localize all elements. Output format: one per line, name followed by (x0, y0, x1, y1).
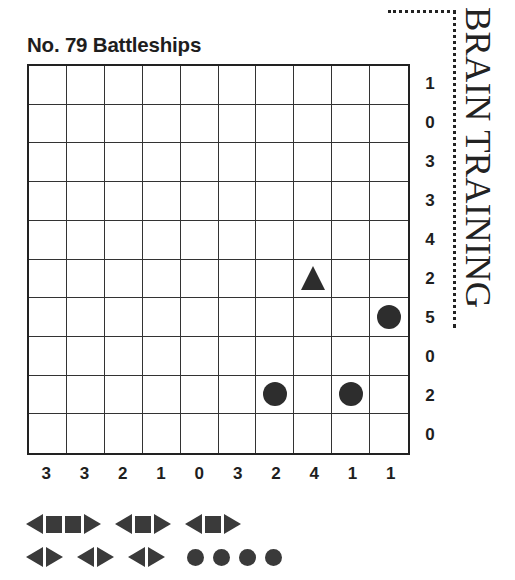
grid-cell-r4-c6[interactable] (256, 221, 294, 260)
grid-cell-r1-c8[interactable] (332, 105, 370, 144)
grid-cell-r2-c9[interactable] (370, 143, 408, 182)
grid-cell-r8-c5[interactable] (219, 376, 257, 415)
grid-cell-r9-c4[interactable] (181, 414, 219, 453)
grid-cell-r4-c7[interactable] (294, 221, 332, 260)
grid-cell-r6-c9[interactable] (370, 298, 408, 337)
grid-cell-r9-c2[interactable] (105, 414, 143, 453)
grid-cell-r0-c4[interactable] (181, 66, 219, 105)
grid-cell-r2-c6[interactable] (256, 143, 294, 182)
grid-cell-r3-c4[interactable] (181, 182, 219, 221)
grid-cell-r6-c3[interactable] (143, 298, 181, 337)
grid-cell-r5-c8[interactable] (332, 260, 370, 299)
grid-cell-r8-c2[interactable] (105, 376, 143, 415)
grid-cell-r1-c7[interactable] (294, 105, 332, 144)
grid-cell-r4-c4[interactable] (181, 221, 219, 260)
grid-cell-r5-c6[interactable] (256, 260, 294, 299)
grid-cell-r7-c9[interactable] (370, 337, 408, 376)
grid-cell-r5-c7[interactable] (294, 260, 332, 299)
grid-cell-r7-c4[interactable] (181, 337, 219, 376)
grid-cell-r1-c5[interactable] (219, 105, 257, 144)
grid-cell-r3-c7[interactable] (294, 182, 332, 221)
grid-cell-r1-c6[interactable] (256, 105, 294, 144)
grid-cell-r7-c7[interactable] (294, 337, 332, 376)
grid-cell-r3-c5[interactable] (219, 182, 257, 221)
grid-cell-r4-c1[interactable] (67, 221, 105, 260)
grid-cell-r7-c0[interactable] (29, 337, 67, 376)
grid-cell-r9-c5[interactable] (219, 414, 257, 453)
grid-cell-r7-c8[interactable] (332, 337, 370, 376)
grid-cell-r0-c2[interactable] (105, 66, 143, 105)
grid-cell-r7-c3[interactable] (143, 337, 181, 376)
grid-cell-r4-c9[interactable] (370, 221, 408, 260)
grid-cell-r0-c7[interactable] (294, 66, 332, 105)
grid-cell-r0-c0[interactable] (29, 66, 67, 105)
grid-cell-r5-c4[interactable] (181, 260, 219, 299)
grid-cell-r9-c8[interactable] (332, 414, 370, 453)
grid-cell-r2-c7[interactable] (294, 143, 332, 182)
grid-cell-r2-c0[interactable] (29, 143, 67, 182)
grid-cell-r4-c2[interactable] (105, 221, 143, 260)
grid-cell-r9-c3[interactable] (143, 414, 181, 453)
grid-cell-r7-c1[interactable] (67, 337, 105, 376)
grid-cell-r9-c1[interactable] (67, 414, 105, 453)
grid-cell-r1-c3[interactable] (143, 105, 181, 144)
grid-cell-r8-c0[interactable] (29, 376, 67, 415)
grid-cell-r3-c3[interactable] (143, 182, 181, 221)
grid-cell-r0-c8[interactable] (332, 66, 370, 105)
grid-cell-r6-c0[interactable] (29, 298, 67, 337)
grid-cell-r8-c3[interactable] (143, 376, 181, 415)
grid-cell-r8-c9[interactable] (370, 376, 408, 415)
grid-cell-r9-c0[interactable] (29, 414, 67, 453)
grid-cell-r1-c4[interactable] (181, 105, 219, 144)
grid-cell-r0-c9[interactable] (370, 66, 408, 105)
grid-cell-r3-c0[interactable] (29, 182, 67, 221)
grid-cell-r2-c1[interactable] (67, 143, 105, 182)
grid-cell-r0-c5[interactable] (219, 66, 257, 105)
grid-cell-r3-c8[interactable] (332, 182, 370, 221)
grid-cell-r5-c5[interactable] (219, 260, 257, 299)
grid-cell-r8-c4[interactable] (181, 376, 219, 415)
grid-cell-r4-c3[interactable] (143, 221, 181, 260)
grid-cell-r4-c5[interactable] (219, 221, 257, 260)
grid-cell-r6-c2[interactable] (105, 298, 143, 337)
grid-cell-r7-c6[interactable] (256, 337, 294, 376)
grid-cell-r6-c5[interactable] (219, 298, 257, 337)
grid-cell-r0-c6[interactable] (256, 66, 294, 105)
grid-cell-r6-c8[interactable] (332, 298, 370, 337)
grid-cell-r1-c0[interactable] (29, 105, 67, 144)
grid-cell-r9-c9[interactable] (370, 414, 408, 453)
grid-cell-r0-c1[interactable] (67, 66, 105, 105)
grid-cell-r2-c4[interactable] (181, 143, 219, 182)
grid-cell-r6-c1[interactable] (67, 298, 105, 337)
grid-cell-r9-c7[interactable] (294, 414, 332, 453)
grid-cell-r5-c1[interactable] (67, 260, 105, 299)
grid-cell-r2-c5[interactable] (219, 143, 257, 182)
grid-cell-r8-c7[interactable] (294, 376, 332, 415)
grid-cell-r4-c8[interactable] (332, 221, 370, 260)
grid-cell-r6-c7[interactable] (294, 298, 332, 337)
grid-cell-r5-c3[interactable] (143, 260, 181, 299)
grid-cell-r3-c6[interactable] (256, 182, 294, 221)
grid-cell-r2-c2[interactable] (105, 143, 143, 182)
grid-cell-r7-c5[interactable] (219, 337, 257, 376)
grid-cell-r2-c8[interactable] (332, 143, 370, 182)
grid-cell-r1-c9[interactable] (370, 105, 408, 144)
grid-cell-r3-c1[interactable] (67, 182, 105, 221)
grid-cell-r1-c2[interactable] (105, 105, 143, 144)
grid-cell-r5-c0[interactable] (29, 260, 67, 299)
grid-cell-r7-c2[interactable] (105, 337, 143, 376)
grid-cell-r3-c9[interactable] (370, 182, 408, 221)
grid-cell-r3-c2[interactable] (105, 182, 143, 221)
grid-cell-r0-c3[interactable] (143, 66, 181, 105)
grid-cell-r6-c6[interactable] (256, 298, 294, 337)
grid-cell-r5-c9[interactable] (370, 260, 408, 299)
grid-cell-r2-c3[interactable] (143, 143, 181, 182)
grid-cell-r5-c2[interactable] (105, 260, 143, 299)
grid-cell-r8-c6[interactable] (256, 376, 294, 415)
grid-cell-r4-c0[interactable] (29, 221, 67, 260)
grid-cell-r6-c4[interactable] (181, 298, 219, 337)
grid-cell-r8-c1[interactable] (67, 376, 105, 415)
grid-cell-r9-c6[interactable] (256, 414, 294, 453)
grid-cell-r8-c8[interactable] (332, 376, 370, 415)
grid-cell-r1-c1[interactable] (67, 105, 105, 144)
